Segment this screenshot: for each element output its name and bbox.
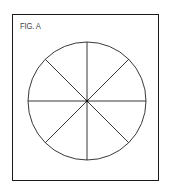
divided-circle-diagram [0,0,171,186]
center-point [86,100,89,103]
